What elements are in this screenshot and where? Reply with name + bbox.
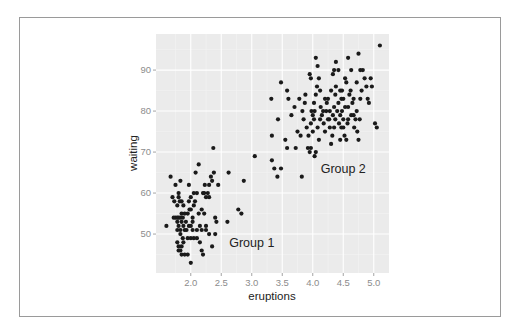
data-point	[197, 212, 201, 216]
data-point	[317, 138, 321, 142]
data-point	[309, 146, 313, 150]
data-point	[334, 84, 338, 88]
data-point	[177, 224, 181, 228]
data-point	[191, 216, 195, 220]
data-point	[297, 97, 301, 101]
data-point	[270, 134, 274, 138]
data-point	[175, 228, 179, 232]
data-point	[198, 240, 202, 244]
data-point	[204, 228, 208, 232]
data-point	[183, 212, 187, 216]
data-point	[311, 113, 315, 117]
data-point	[177, 244, 181, 248]
data-point	[181, 216, 185, 220]
data-point	[323, 130, 327, 134]
data-point	[309, 109, 313, 113]
data-point	[184, 220, 188, 224]
data-point	[201, 253, 205, 257]
data-point	[181, 236, 185, 240]
data-point	[195, 191, 199, 195]
data-point	[349, 113, 353, 117]
data-point	[306, 134, 310, 138]
data-point	[333, 93, 337, 97]
data-point	[328, 125, 332, 129]
data-point	[200, 248, 204, 252]
data-point	[272, 166, 276, 170]
data-point	[202, 212, 206, 216]
data-point	[339, 125, 343, 129]
data-point	[352, 97, 356, 101]
data-point	[308, 150, 312, 154]
data-point	[192, 203, 196, 207]
data-point	[331, 72, 335, 76]
data-point	[360, 89, 364, 93]
data-point	[210, 179, 214, 183]
data-point	[172, 216, 176, 220]
data-point	[225, 220, 229, 224]
data-point	[316, 64, 320, 68]
data-point	[318, 117, 322, 121]
data-point	[180, 199, 184, 203]
data-point	[213, 232, 217, 236]
data-point	[349, 68, 353, 72]
data-point	[337, 121, 341, 125]
data-point	[312, 101, 316, 105]
data-point	[369, 76, 373, 80]
data-point	[275, 175, 279, 179]
data-point	[370, 84, 374, 88]
data-point	[300, 175, 304, 179]
x-tick-label: 5.0	[367, 277, 380, 288]
data-point	[236, 207, 240, 211]
y-tick-label: 80	[140, 105, 151, 116]
data-point	[332, 125, 336, 129]
data-point	[346, 117, 350, 121]
data-point	[189, 261, 193, 265]
data-point	[216, 183, 220, 187]
data-point	[207, 232, 211, 236]
data-point	[193, 199, 197, 203]
data-point	[375, 125, 379, 129]
data-point	[305, 125, 309, 129]
data-point	[181, 203, 185, 207]
data-point	[356, 138, 360, 142]
data-point	[189, 195, 193, 199]
data-point	[178, 232, 182, 236]
data-point	[303, 93, 307, 97]
data-point	[312, 117, 316, 121]
data-point	[242, 179, 246, 183]
data-point	[204, 224, 208, 228]
data-point	[331, 113, 335, 117]
data-point	[186, 253, 190, 257]
data-point	[353, 117, 357, 121]
data-point	[341, 97, 345, 101]
data-point	[276, 117, 280, 121]
data-point	[311, 130, 315, 134]
data-point	[341, 117, 345, 121]
data-point	[328, 109, 332, 113]
data-point	[181, 240, 185, 244]
data-point	[170, 195, 174, 199]
annotation-label: Group 2	[321, 162, 366, 176]
y-tick-label: 90	[140, 64, 151, 75]
data-point	[333, 117, 337, 121]
data-point	[189, 224, 193, 228]
data-point	[309, 76, 313, 80]
data-point	[195, 236, 199, 240]
data-point	[343, 105, 347, 109]
data-point	[345, 121, 349, 125]
data-point	[200, 228, 204, 232]
data-point	[366, 97, 370, 101]
y-tick-label: 70	[140, 146, 151, 157]
data-point	[292, 105, 296, 109]
data-point	[191, 228, 195, 232]
data-point	[285, 89, 289, 93]
data-point	[314, 150, 318, 154]
data-point	[184, 228, 188, 232]
data-point	[329, 142, 333, 146]
data-point	[344, 80, 348, 84]
data-point	[315, 84, 319, 88]
data-point	[338, 113, 342, 117]
data-point	[187, 183, 191, 187]
data-point	[342, 134, 346, 138]
data-point	[358, 97, 362, 101]
